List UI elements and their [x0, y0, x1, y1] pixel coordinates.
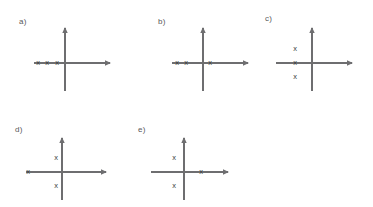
axes-d: [12, 124, 120, 207]
x-axis-arrow-a: [105, 60, 111, 65]
x-axis-arrow-e: [223, 169, 229, 174]
x-mark: x: [172, 182, 176, 190]
axes-c: [262, 14, 366, 105]
y-axis-arrow-c: [309, 27, 314, 33]
y-axis-arrow-b: [200, 27, 205, 33]
x-mark: x: [26, 168, 30, 176]
x-mark: x: [54, 182, 58, 190]
x-mark: x: [293, 45, 297, 53]
x-axis-arrow-c: [347, 60, 353, 65]
y-axis-arrow-d: [59, 137, 64, 143]
y-axis-arrow-a: [62, 27, 67, 33]
x-mark: x: [293, 73, 297, 81]
x-mark: x: [36, 59, 40, 67]
x-mark: x: [199, 168, 203, 176]
x-axis-arrow-d: [101, 169, 107, 174]
x-mark: x: [172, 154, 176, 162]
x-mark: x: [55, 59, 59, 67]
x-mark: x: [293, 59, 297, 67]
y-axis-arrow-e: [181, 137, 186, 143]
axes-e: [137, 124, 242, 207]
x-mark: x: [175, 59, 179, 67]
x-mark: x: [45, 59, 49, 67]
x-mark: x: [184, 59, 188, 67]
x-mark: x: [208, 59, 212, 67]
x-axis-arrow-b: [243, 60, 249, 65]
x-mark: x: [54, 154, 58, 162]
